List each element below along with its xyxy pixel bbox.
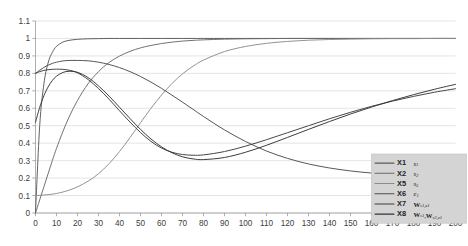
- y-tick-label: 0.3: [19, 157, 31, 166]
- x-tick-label: 0: [33, 219, 38, 228]
- x-tick-label: 50: [136, 219, 146, 228]
- x-tick-label: 100: [239, 219, 253, 228]
- y-tick-label: 1: [25, 34, 30, 43]
- x-tick-label: 80: [199, 219, 209, 228]
- chart-legend[interactable]: X1s1X2s2X5s5X6e1X7Ws1,e1X8Ws1,Ws2,e1: [372, 154, 467, 223]
- y-tick-label: 0.9: [19, 52, 31, 61]
- y-tick-label: 0.2: [19, 174, 31, 183]
- x-tick-label: 150: [344, 219, 358, 228]
- x-tick-label: 20: [73, 219, 83, 228]
- y-tick-label: 0.1: [19, 192, 31, 201]
- y-tick-label: 0.7: [19, 87, 31, 96]
- legend-label-x5[interactable]: X5: [397, 179, 406, 188]
- x-tick-label: 130: [302, 219, 316, 228]
- x-tick-label: 120: [281, 219, 295, 228]
- x-tick-label: 10: [52, 219, 62, 228]
- y-tick-label: 0.6: [19, 104, 31, 113]
- legend-label-x7[interactable]: X7: [397, 199, 406, 208]
- x-tick-label: 70: [178, 219, 188, 228]
- x-tick-label: 140: [323, 219, 337, 228]
- legend-label-x8[interactable]: X8: [397, 209, 406, 218]
- y-tick-label: 0.5: [19, 122, 31, 131]
- y-tick-label: 1.1: [19, 17, 31, 26]
- x-tick-label: 40: [115, 219, 125, 228]
- x-tick-label: 30: [94, 219, 104, 228]
- x-tick-label: 110: [260, 219, 273, 228]
- y-tick-label: 0: [25, 209, 30, 218]
- y-tick-label: 0.8: [19, 69, 31, 78]
- line-chart: 00.10.20.30.40.50.60.70.80.911.1 0102030…: [0, 0, 468, 246]
- y-tick-label: 0.4: [19, 139, 31, 148]
- x-tick-label: 60: [157, 219, 167, 228]
- legend-label-x2[interactable]: X2: [397, 169, 406, 178]
- legend-label-x6[interactable]: X6: [397, 189, 406, 198]
- legend-label-x1[interactable]: X1: [397, 158, 406, 167]
- chart-canvas: 00.10.20.30.40.50.60.70.80.911.1 0102030…: [0, 0, 468, 246]
- x-tick-label: 90: [220, 219, 230, 228]
